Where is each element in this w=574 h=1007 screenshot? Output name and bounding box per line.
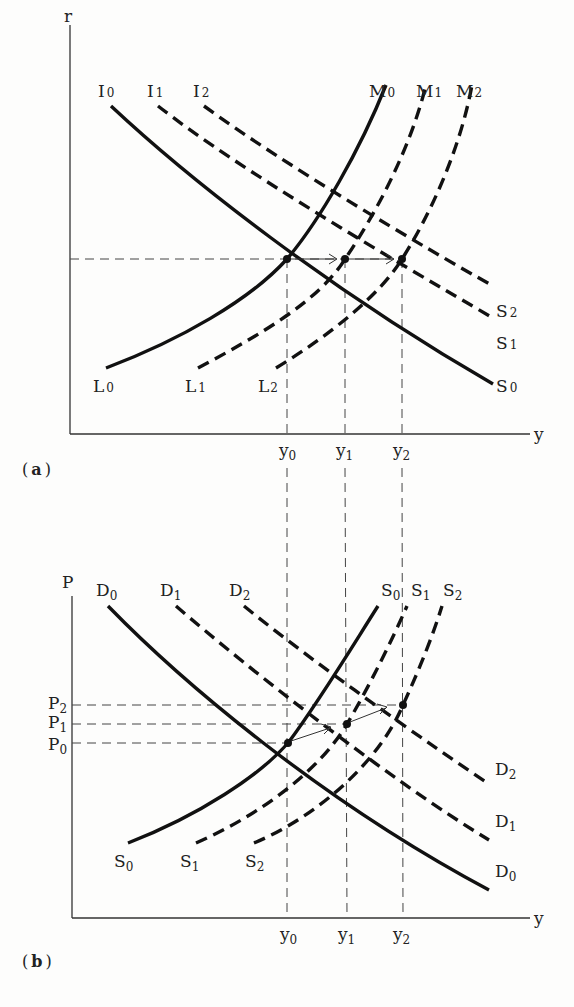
lm-curve-0 — [106, 85, 386, 368]
equilibrium-2-a — [398, 255, 406, 263]
label-D0-top: D0 — [96, 580, 117, 603]
r-axis-label: r — [64, 6, 73, 26]
label-M2: M2 — [456, 81, 482, 101]
label-S2-top-b: S2 — [443, 580, 462, 603]
panel-a-label: (a) — [22, 460, 51, 479]
label-D1-right: D1 — [495, 811, 516, 834]
equilibrium-0-a — [283, 255, 291, 263]
tick-y2-b: y2 — [392, 924, 410, 947]
is-lm-ad-as-diagram: r y I0 I1 I2 M0 M1 M2 L0 L1 — [0, 0, 574, 1007]
label-D0-right: D0 — [495, 861, 516, 884]
inter-panel-guides — [287, 468, 403, 918]
connector-y1 — [345, 468, 347, 918]
equilibrium-1-a — [341, 255, 349, 263]
p-axis-label: P — [62, 572, 73, 592]
tick-P0: P0 — [48, 734, 67, 757]
label-S1-top-b: S1 — [411, 580, 430, 603]
label-S0-a: S0 — [496, 376, 517, 396]
label-I2: I2 — [193, 81, 209, 101]
ad-curve-0 — [108, 606, 489, 890]
label-L2: L2 — [258, 376, 278, 396]
tick-y0-b: y0 — [279, 924, 297, 947]
panel-a: r y I0 I1 I2 M0 M1 M2 L0 L1 — [22, 6, 544, 479]
tick-y1-b: y1 — [337, 924, 355, 947]
equilibrium-2-b — [399, 701, 407, 709]
label-D2-right: D2 — [495, 759, 516, 782]
label-D1-top: D1 — [160, 580, 181, 603]
label-L0: L0 — [93, 376, 114, 396]
y-axis-label-a: y — [533, 424, 544, 444]
is-curve-1 — [158, 106, 493, 318]
equilibrium-1-b — [343, 720, 351, 728]
connector-y2 — [402, 468, 403, 918]
tick-y1-a: y1 — [335, 440, 353, 463]
label-S2-a: S2 — [496, 301, 517, 321]
y-axis-label-b: y — [533, 908, 544, 928]
label-D2-top: D2 — [229, 580, 250, 603]
lm-curve-2 — [276, 85, 472, 368]
tick-y2-a: y2 — [392, 440, 410, 463]
label-S2-bottom-b: S2 — [245, 851, 264, 874]
label-S0-bottom-b: S0 — [114, 851, 133, 874]
panel-b-label: (b) — [22, 952, 52, 971]
label-S1-a: S1 — [496, 333, 517, 353]
label-I1: I1 — [147, 81, 163, 101]
label-L1: L1 — [185, 376, 206, 396]
label-I0: I0 — [98, 81, 114, 101]
equilibrium-0-b — [284, 739, 292, 747]
label-M0: M0 — [369, 81, 395, 101]
ad-curve-1 — [176, 606, 489, 840]
label-S1-bottom-b: S1 — [180, 851, 199, 874]
label-S0-top-b: S0 — [381, 580, 400, 603]
label-M1: M1 — [416, 81, 442, 101]
panel-b: P y D0 D1 D2 S0 S1 S2 S0 S1 S2 — [22, 572, 544, 971]
tick-y0-a: y0 — [278, 440, 296, 463]
